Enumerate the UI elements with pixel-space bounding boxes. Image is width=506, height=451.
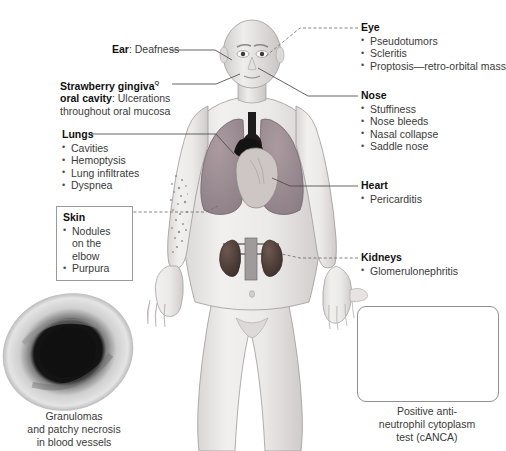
nose-list: Stuffiness Nose bleeds Nasal collapse Sa… [361,103,438,153]
label-lungs: Lungs Cavities Hemoptysis Lung infiltrat… [62,128,139,192]
pupil-right [260,52,264,56]
gingiva-line-3: throughout oral mucosa [60,105,170,118]
caption-canca: Positive anti- neutrophil cytoplasm test… [348,405,506,443]
list-item: Cavities [62,142,139,155]
label-heart: Heart Pericarditis [361,179,422,205]
granuloma-micrograph [0,276,149,427]
label-strawberry-gingiva: Strawberry gingivaQ oral cavity: Ulcerat… [60,77,170,117]
gingiva-line-2: oral cavity: Ulcerations [60,92,170,105]
lungs-heading: Lungs [62,128,139,141]
caption-granuloma: Granulomas and patchy necrosis in blood … [4,410,144,448]
gingiva-text: : Ulcerations [112,92,170,104]
caption-canca-line-3: test (cANCA) [348,431,506,444]
heart-heading: Heart [361,179,422,192]
list-item: Purpura [63,262,125,275]
list-item: Saddle nose [361,140,438,153]
caption-canca-line-2: neutrophil cytoplasm [348,418,506,431]
skin-heading: Skin [63,211,125,224]
gingiva-heading: Strawberry gingiva [60,80,155,92]
gingiva-line-1: Strawberry gingivaQ [60,77,170,92]
list-item: Hemoptysis [62,154,139,167]
kidneys-list: Glomerulonephritis [361,265,458,278]
label-ear-text: : Deafness [129,43,179,55]
ear-right [276,47,284,63]
list-item: Nose bleeds [361,115,438,128]
list-item: Nasal collapse [361,128,438,141]
heart-list: Pericarditis [361,193,422,206]
caption-granuloma-line-1: Granulomas [4,410,144,423]
caption-granuloma-line-3: in blood vessels [4,436,144,449]
list-item: Nodules on the elbow [63,225,125,263]
spine [245,238,257,280]
list-item: Glomerulonephritis [361,265,458,278]
skin-list: Nodules on the elbow Purpura [63,225,125,275]
kidneys-heading: Kidneys [361,251,458,264]
label-kidneys: Kidneys Glomerulonephritis [361,251,458,277]
hand-left [147,266,183,327]
canca-panel [357,306,499,402]
gingiva-heading-2: oral cavity [60,92,112,104]
label-ear: Ear: Deafness [112,43,179,56]
list-item: Pseudotumors [361,35,506,48]
label-eye: Eye Pseudotumors Scleritis Proptosis—ret… [361,21,506,72]
list-item: Pericarditis [361,193,422,206]
list-item: Scleritis [361,47,506,60]
list-item: Stuffiness [361,103,438,116]
lungs-list: Cavities Hemoptysis Lung infiltrates Dys… [62,142,139,192]
navel [249,291,254,298]
label-skin: Skin Nodules on the elbow Purpura [56,206,133,281]
list-item: Dyspnea [62,179,139,192]
eye-list: Pseudotumors Scleritis Proptosis—retro-o… [361,35,506,73]
caption-canca-line-1: Positive anti- [348,405,506,418]
list-item: Proptosis—retro-orbital mass [361,60,506,73]
pupil-left [241,52,245,56]
label-ear-heading: Ear [112,43,129,55]
label-nose: Nose Stuffiness Nose bleeds Nasal collap… [361,89,438,153]
eye-heading: Eye [361,21,506,34]
list-item: Lung infiltrates [62,167,139,180]
caption-granuloma-line-2: and patchy necrosis [4,423,144,436]
nose-heading: Nose [361,89,438,102]
gingiva-superscript: Q [155,80,160,86]
human-body-figure [147,20,367,451]
